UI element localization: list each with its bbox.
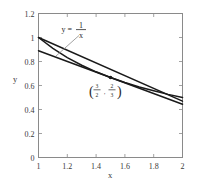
x-tick-label: 1 [37, 162, 41, 171]
point-label-y-numerator: 2 [111, 83, 114, 89]
y-tick-label: 0.8 [25, 58, 35, 67]
x-axis-label: x [108, 170, 113, 180]
x-tick-label: 2 [181, 162, 185, 171]
marked-point [109, 76, 113, 80]
x-tick-label: 1.6 [120, 162, 130, 171]
x-tick-label: 1.8 [149, 162, 159, 171]
y-axis-label: y [13, 74, 18, 84]
y-tick-label: 0.2 [25, 130, 35, 139]
y-tick-label: 0.6 [25, 82, 35, 91]
chart-svg: 11.21.41.61.82 00.20.40.60.811.2 y = 1 x… [0, 0, 198, 187]
x-tick-label: 1.2 [62, 162, 72, 171]
y-tick-label: 0.4 [25, 106, 35, 115]
y-tick-label: 0 [31, 154, 35, 163]
equation-lhs: y = [61, 25, 72, 34]
equation-denominator: x [79, 31, 83, 40]
y-tick-labels: 00.20.40.60.811.2 [25, 10, 35, 163]
y-tick-label: 1 [31, 34, 35, 43]
point-label-close-paren: ) [117, 84, 122, 100]
point-label-y-denominator: 3 [111, 92, 114, 98]
point-label-x-numerator: 3 [96, 83, 99, 89]
point-label: ( 3 2 , 2 3 ) [89, 83, 122, 100]
point-label-comma: , [104, 89, 106, 95]
point-label-x-denominator: 2 [96, 92, 99, 98]
equation-annotation: y = 1 x [61, 21, 86, 41]
equation-numerator: 1 [79, 21, 83, 30]
data-points-group [109, 76, 113, 80]
point-label-open-paren: ( [89, 84, 94, 100]
figure-container: 11.21.41.61.82 00.20.40.60.811.2 y = 1 x… [0, 0, 198, 187]
y-tick-label: 1.2 [25, 10, 35, 19]
annotation-leader-line [56, 36, 79, 57]
x-tick-label: 1.4 [91, 162, 101, 171]
